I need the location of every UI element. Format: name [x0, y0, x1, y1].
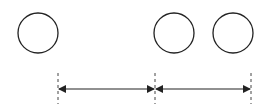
diagram-canvas [0, 0, 267, 112]
circle-1 [18, 13, 58, 53]
spacing-diagram [0, 0, 267, 112]
circle-2 [154, 13, 194, 53]
circle-3 [213, 13, 253, 53]
circles [18, 13, 253, 53]
